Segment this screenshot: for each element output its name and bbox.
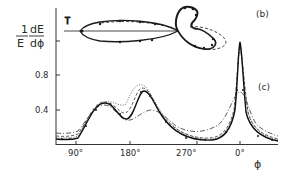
ylabel-numerator: 1 xyxy=(21,23,28,36)
x-axis-label: ϕ xyxy=(254,158,261,171)
series-solid xyxy=(56,42,278,141)
xtick-270: 270° xyxy=(176,148,196,158)
panel-label-c: (c) xyxy=(258,82,270,92)
xtick-90: 90° xyxy=(68,148,83,158)
line-plot-c xyxy=(56,42,278,141)
xtick-180: 180° xyxy=(120,148,140,158)
ytick-0.8: 0.8 xyxy=(35,70,49,80)
figure: 1 E dE dϕ 0.8 0.4 90° 180° 270° 0° ϕ (b)… xyxy=(0,0,291,173)
panel-label-b: (b) xyxy=(256,9,269,19)
y-axis-label: 1 E dE dϕ xyxy=(16,23,44,50)
ylabel-dphi: dϕ xyxy=(30,37,44,50)
xtick-0: 0° xyxy=(235,148,245,158)
ylabel-denominator: E xyxy=(17,37,24,50)
reference-label-T: T xyxy=(64,17,70,26)
ylabel-dE: dE xyxy=(30,23,44,36)
ytick-0.4: 0.4 xyxy=(35,105,49,115)
polar-plot-b: T xyxy=(64,7,226,50)
